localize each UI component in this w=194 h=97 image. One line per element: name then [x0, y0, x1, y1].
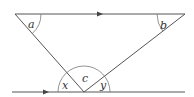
angle-label-a: a: [28, 18, 35, 31]
angle-label-b: b: [160, 19, 167, 32]
top-arrow-icon: [97, 12, 103, 17]
diagram-canvas: a b c x y: [0, 0, 194, 97]
angle-label-y: y: [99, 79, 107, 92]
left-transversal: [15, 14, 84, 92]
bottom-arrow-icon: [43, 90, 49, 95]
angle-label-x: x: [62, 79, 69, 92]
angle-label-c: c: [82, 72, 88, 85]
